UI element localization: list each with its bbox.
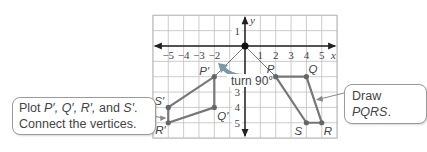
- vertex-label-P: P: [267, 63, 275, 75]
- rotation-label: turn 90°: [231, 74, 273, 88]
- callout-text: .: [387, 105, 390, 119]
- x-axis-label: x: [330, 49, 336, 61]
- x-tick-label: −5: [162, 49, 174, 61]
- x-tick-label: −2: [208, 49, 220, 61]
- vertex-dot: [166, 105, 171, 110]
- plot-image-callout: Plot P′, Q′, R′, and S′. Connect the ver…: [12, 97, 156, 135]
- y-axis-label: y: [249, 14, 255, 26]
- x-tick-label: −4: [178, 49, 190, 61]
- callout-text: Plot: [19, 101, 44, 115]
- vertex-label-P-prime: P′: [199, 65, 210, 77]
- x-tick-label: 3: [288, 49, 294, 61]
- callout-text: Connect the vertices.: [19, 117, 136, 131]
- y-tick-label: 5: [235, 117, 241, 129]
- vertex-label-R-prime: R′: [155, 124, 166, 136]
- x-tick-label: 2: [273, 49, 279, 61]
- draw-original-callout: Draw PQRS.: [344, 84, 427, 124]
- x-tick-label: −3: [193, 49, 205, 61]
- y-tick-label: 1: [235, 25, 241, 37]
- y-tick-label: 4: [235, 101, 241, 113]
- origin-dot: [242, 43, 249, 50]
- vertex-dot: [212, 105, 217, 110]
- vertex-label-Q-prime: Q′: [217, 110, 229, 122]
- callout-text: P′, Q′, R′,: [44, 101, 95, 115]
- x-tick-label: 5: [319, 49, 325, 61]
- vertex-dot: [304, 120, 309, 125]
- callout-text: S′: [123, 101, 134, 115]
- callout-text: and: [96, 101, 124, 115]
- callout-text: Draw: [352, 89, 381, 103]
- vertex-label-S: S: [294, 125, 302, 137]
- vertex-dot: [166, 120, 171, 125]
- vertex-label-R: R: [324, 125, 332, 137]
- callout-text: PQRS: [352, 105, 387, 119]
- vertex-label-Q: Q: [308, 63, 317, 75]
- vertex-dot: [273, 74, 278, 79]
- vertex-dot: [212, 74, 217, 79]
- vertex-dot: [304, 74, 309, 79]
- callout-text: .: [134, 101, 137, 115]
- x-tick-label: 4: [304, 49, 310, 61]
